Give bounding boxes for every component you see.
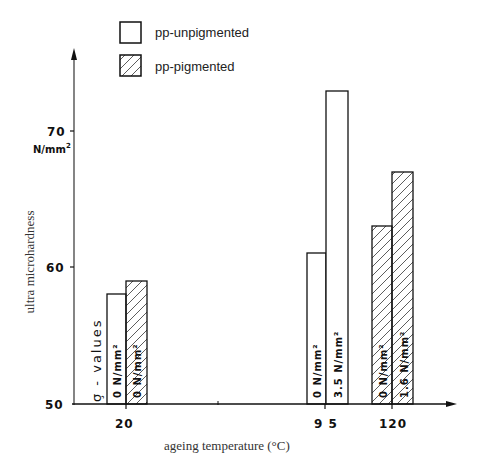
- y-tick-50: 50: [45, 398, 64, 412]
- x-axis-label: ageing temperature (°C): [164, 438, 290, 453]
- y-axis: 70 N/mm2 60 50 ultra microhardness: [22, 48, 77, 412]
- x-tick-120: 120: [379, 417, 407, 431]
- legend-swatch-unpigmented: [120, 22, 141, 43]
- legend-swatch-pigmented: [120, 55, 141, 76]
- y-tick-60: 60: [46, 261, 65, 275]
- sigma-values-annotation: σ̧ - values: [89, 319, 104, 402]
- bar-label-20b: 0 N/mm²: [132, 343, 143, 398]
- x-tick-95: 9 5: [314, 417, 338, 431]
- bar-label-120b: 1.6 N/mm²: [399, 331, 410, 398]
- legend-label-pigmented: pp-pigmented: [155, 59, 235, 74]
- bars: 0 N/mm² 0 N/mm² σ̧ - values 0 N/mm² 3.5 …: [89, 91, 413, 404]
- x-axis-arrow-icon: [446, 401, 457, 407]
- legend: pp-unpigmented pp-pigmented: [120, 22, 249, 76]
- y-axis-arrow-icon: [71, 48, 77, 60]
- y-tick-70: 70: [47, 125, 66, 139]
- legend-label-unpigmented: pp-unpigmented: [155, 25, 249, 40]
- bar-label-20a: 0 N/mm²: [112, 343, 123, 398]
- bar-label-95a: 0 N/mm²: [312, 343, 323, 398]
- y-axis-label: ultra microhardness: [22, 211, 37, 314]
- bar-label-120a: 0 N/mm²: [378, 343, 389, 398]
- x-axis: 20 9 5 120 ageing temperature (°C): [72, 401, 457, 453]
- y-unit: N/mm2: [33, 142, 71, 155]
- bar-chart: pp-unpigmented pp-pigmented 70 N/mm2 60 …: [0, 0, 480, 475]
- x-tick-20: 20: [115, 417, 134, 431]
- bar-label-95b: 3.5 N/mm²: [333, 331, 344, 398]
